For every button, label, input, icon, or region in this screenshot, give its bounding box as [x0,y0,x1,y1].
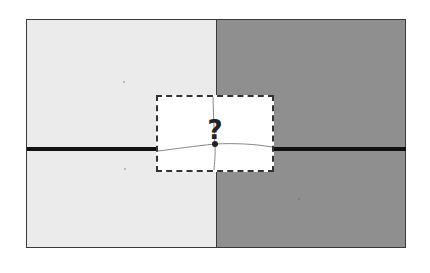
question-mark-label: ? [207,115,222,145]
inset-detail-lines: ? [0,0,430,273]
